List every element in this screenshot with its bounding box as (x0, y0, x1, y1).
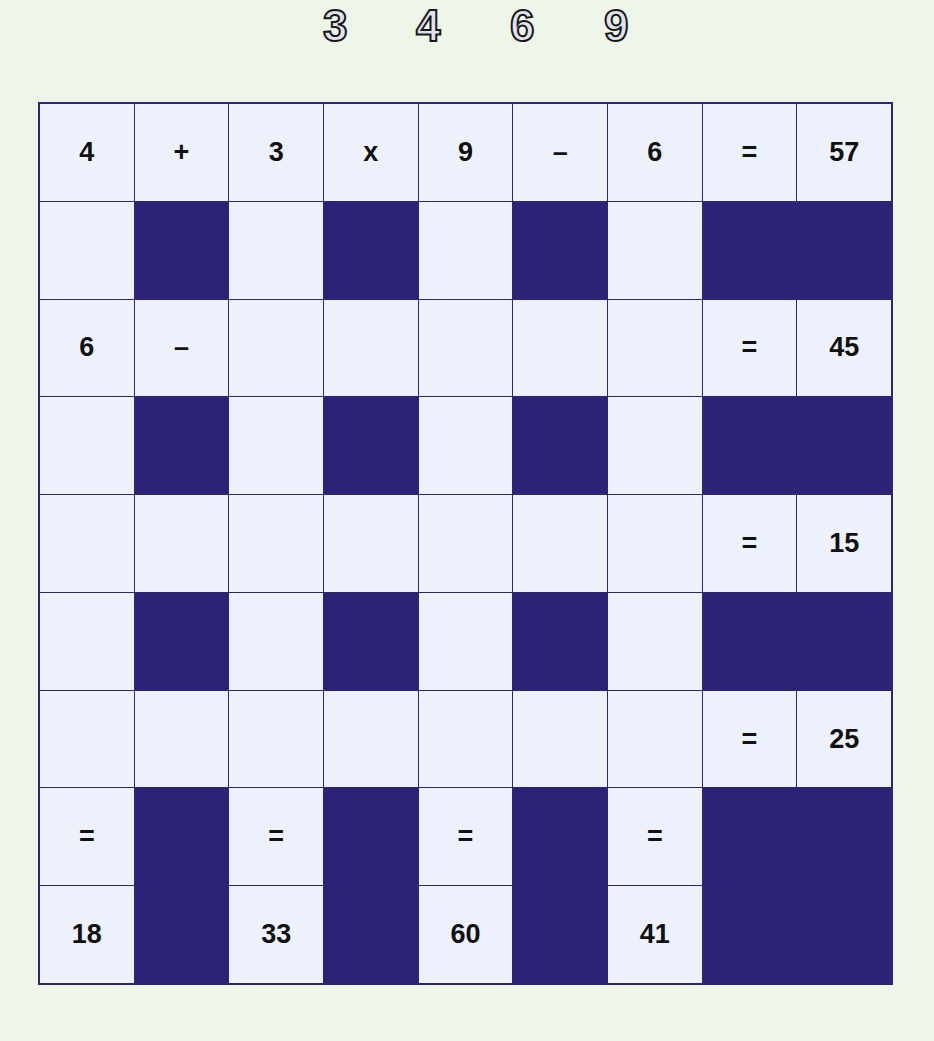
digit-tile: 6 (510, 4, 534, 48)
number-input-cell[interactable] (419, 495, 513, 592)
operator-input-cell[interactable] (229, 202, 323, 299)
column-result-cell: 33 (229, 886, 323, 983)
operator-input-cell[interactable] (608, 593, 702, 690)
row-result-cell: 25 (797, 691, 891, 788)
number-cell: 9 (419, 104, 513, 201)
blocked-cell (513, 202, 607, 299)
blocked-cell (513, 593, 607, 690)
number-input-cell[interactable] (608, 691, 702, 788)
row-result-cell: 15 (797, 495, 891, 592)
available-digits: 3 4 6 9 (0, 4, 934, 54)
number-cell: 6 (40, 300, 134, 397)
operator-cell: x (324, 104, 418, 201)
operator-cell: – (513, 104, 607, 201)
blocked-cell (324, 397, 418, 494)
operator-input-cell[interactable] (419, 397, 513, 494)
operator-input-cell[interactable] (419, 593, 513, 690)
blocked-cell (324, 202, 418, 299)
operator-input-cell[interactable] (135, 691, 229, 788)
operator-cell: – (135, 300, 229, 397)
operator-input-cell[interactable] (608, 397, 702, 494)
operator-input-cell[interactable] (40, 397, 134, 494)
equals-cell: = (419, 788, 513, 885)
blocked-cell (703, 202, 891, 299)
equals-cell: = (703, 300, 797, 397)
operator-input-cell[interactable] (229, 593, 323, 690)
column-result-cell: 18 (40, 886, 134, 983)
number-cell: 4 (40, 104, 134, 201)
math-crossword-grid: 4 + 3 x 9 – 6 = 57 6 – = 45 = 15 (38, 102, 893, 985)
operator-input-cell[interactable] (135, 495, 229, 592)
number-input-cell[interactable] (608, 300, 702, 397)
blocked-cell (703, 593, 891, 690)
blocked-cell (135, 593, 229, 690)
number-input-cell[interactable] (229, 691, 323, 788)
equals-cell: = (229, 788, 323, 885)
blocked-cell (703, 397, 891, 494)
operator-cell: + (135, 104, 229, 201)
number-input-cell[interactable] (229, 495, 323, 592)
operator-input-cell[interactable] (229, 397, 323, 494)
equals-cell: = (608, 788, 702, 885)
operator-input-cell[interactable] (324, 495, 418, 592)
digit-tile: 3 (323, 4, 347, 48)
number-input-cell[interactable] (608, 495, 702, 592)
number-cell: 3 (229, 104, 323, 201)
number-input-cell[interactable] (40, 691, 134, 788)
number-input-cell[interactable] (419, 300, 513, 397)
operator-input-cell[interactable] (40, 593, 134, 690)
operator-input-cell[interactable] (40, 202, 134, 299)
row-result-cell: 45 (797, 300, 891, 397)
number-input-cell[interactable] (229, 300, 323, 397)
column-result-cell: 60 (419, 886, 513, 983)
equals-cell: = (703, 104, 797, 201)
blocked-cell (135, 397, 229, 494)
equals-cell: = (40, 788, 134, 885)
operator-input-cell[interactable] (513, 691, 607, 788)
blocked-cell (324, 788, 418, 983)
blocked-cell (703, 788, 891, 983)
digit-tile: 4 (416, 4, 440, 48)
number-input-cell[interactable] (40, 495, 134, 592)
number-cell: 6 (608, 104, 702, 201)
operator-input-cell[interactable] (324, 300, 418, 397)
blocked-cell (513, 788, 607, 983)
blocked-cell (135, 788, 229, 983)
row-result-cell: 57 (797, 104, 891, 201)
operator-input-cell[interactable] (608, 202, 702, 299)
column-result-cell: 41 (608, 886, 702, 983)
blocked-cell (135, 202, 229, 299)
operator-input-cell[interactable] (513, 495, 607, 592)
number-input-cell[interactable] (419, 691, 513, 788)
equals-cell: = (703, 691, 797, 788)
operator-input-cell[interactable] (513, 300, 607, 397)
digit-tile: 9 (604, 4, 628, 48)
operator-input-cell[interactable] (419, 202, 513, 299)
equals-cell: = (703, 495, 797, 592)
blocked-cell (513, 397, 607, 494)
operator-input-cell[interactable] (324, 691, 418, 788)
blocked-cell (324, 593, 418, 690)
